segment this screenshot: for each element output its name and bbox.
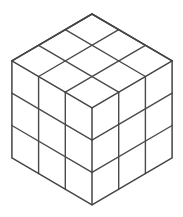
isometric-cube-diagram: [0, 0, 183, 217]
figure-root: [0, 0, 183, 217]
